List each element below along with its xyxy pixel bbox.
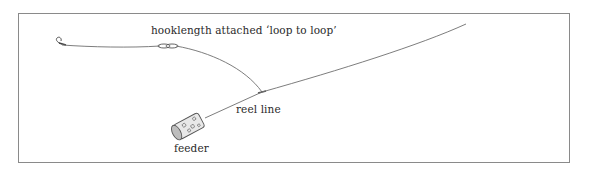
loop-knot-icon (158, 44, 178, 48)
reel-line-label: reel line (236, 103, 281, 115)
hooklength-label: hooklength attached ‘loop to loop’ (151, 24, 337, 36)
feeder-label: feeder (174, 142, 209, 154)
hook-icon (56, 37, 66, 45)
link-line (176, 46, 262, 92)
hooklength-line (62, 45, 160, 47)
feeder-icon (169, 112, 205, 141)
